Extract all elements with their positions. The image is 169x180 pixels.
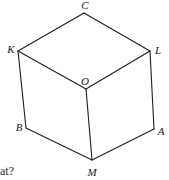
cube-edge-bm <box>26 128 92 160</box>
cube-edge-ko <box>18 51 86 89</box>
vertex-label-l: L <box>155 45 161 56</box>
caption-text: hat? <box>0 164 14 178</box>
cube-edge-kc <box>18 13 84 51</box>
vertex-label-c: C <box>81 0 88 11</box>
vertex-label-b: B <box>16 122 23 133</box>
cube-figure: CKLOBAM hat? <box>0 0 169 180</box>
cube-edge-ol <box>86 51 150 89</box>
cube-edge-ma <box>92 129 154 160</box>
cube-edge-cl <box>84 13 150 51</box>
vertex-label-m: M <box>87 167 96 178</box>
cube-drawing <box>0 0 169 180</box>
cube-edge-om <box>86 89 92 160</box>
vertex-label-a: A <box>158 126 165 137</box>
vertex-label-k: K <box>7 44 14 55</box>
cube-edge-kb <box>18 51 26 128</box>
vertex-label-o: O <box>81 76 89 87</box>
cube-edge-la <box>150 51 154 129</box>
cube-edges <box>18 13 154 160</box>
